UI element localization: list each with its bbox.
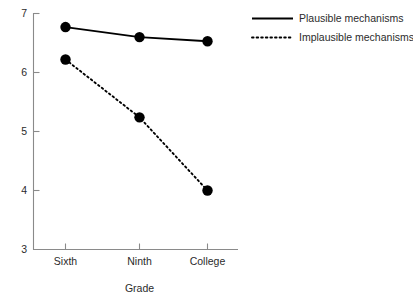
- x-axis-title: Grade: [125, 282, 154, 294]
- line-chart: 7 6 5 4 3 Sixth Ninth College Grade Plau…: [0, 0, 413, 300]
- x-axis-tick-labels: Sixth Ninth College: [54, 255, 226, 267]
- y-axis-tick-labels: 7 6 5 4 3: [21, 7, 27, 255]
- series-line-implausible: [66, 60, 208, 191]
- axis-lines: [34, 13, 239, 250]
- y-tick-label-7: 7: [21, 7, 27, 19]
- data-point-marker: [202, 36, 212, 46]
- y-tick-label-3: 3: [21, 243, 27, 255]
- legend-label-plausible: Plausible mechanisms: [299, 12, 403, 24]
- data-point-marker: [202, 185, 212, 195]
- y-tick-label-6: 6: [21, 66, 27, 78]
- data-point-marker: [134, 112, 144, 122]
- data-point-marker: [60, 54, 70, 64]
- x-tick-label-ninth: Ninth: [127, 255, 152, 267]
- data-point-marker: [134, 32, 144, 42]
- series-group: [66, 27, 208, 190]
- data-point-markers: [60, 22, 212, 196]
- legend: Plausible mechanisms Implausible mechani…: [252, 12, 413, 43]
- legend-label-implausible: Implausible mechanisms: [299, 31, 413, 43]
- data-point-marker: [60, 22, 70, 32]
- y-tick-label-5: 5: [21, 125, 27, 137]
- chart-canvas: 7 6 5 4 3 Sixth Ninth College Grade Plau…: [0, 0, 413, 300]
- y-tick-label-4: 4: [21, 184, 27, 196]
- x-tick-label-sixth: Sixth: [54, 255, 78, 267]
- axes-group: [34, 13, 239, 250]
- x-tick-label-college: College: [190, 255, 226, 267]
